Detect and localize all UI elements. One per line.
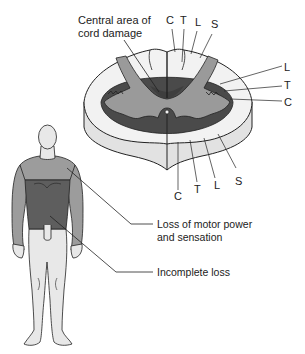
head — [39, 125, 57, 149]
damage-label-line1: Central area of — [78, 14, 152, 26]
dorsal-label-t: T — [180, 14, 187, 26]
damage-label-line2: cord damage — [78, 27, 142, 39]
spinal-cord-cross-section: Central area of cord damage C T L S L T … — [78, 14, 292, 202]
ventral-label-l: L — [214, 179, 220, 191]
genitals — [44, 225, 51, 240]
ventral-label-c: C — [174, 190, 182, 202]
ventral-label-t: T — [194, 183, 201, 195]
dorsal-label-s: S — [211, 18, 218, 30]
leader-dorsal-c — [172, 29, 175, 52]
right-hand — [71, 244, 82, 258]
leader-dorsal-l — [191, 31, 197, 54]
dorsal-label-c: C — [166, 14, 174, 26]
leader-dorsal-s — [200, 34, 212, 58]
motor-loss-label-line1: Loss of motor power — [157, 218, 253, 230]
dorsal-label-l: L — [195, 16, 201, 28]
lateral-label-l: L — [284, 61, 290, 73]
legs — [24, 229, 72, 345]
motor-loss-label-line2: and sensation — [157, 231, 223, 243]
central-canal — [165, 110, 169, 114]
lateral-label-t: T — [284, 79, 291, 91]
incomplete-loss-label: Incomplete loss — [157, 266, 230, 278]
left-hand — [13, 244, 24, 258]
ventral-label-s: S — [235, 175, 242, 187]
central-cord-syndrome-diagram: Central area of cord damage C T L S L T … — [0, 0, 305, 354]
lateral-label-c: C — [284, 96, 292, 108]
